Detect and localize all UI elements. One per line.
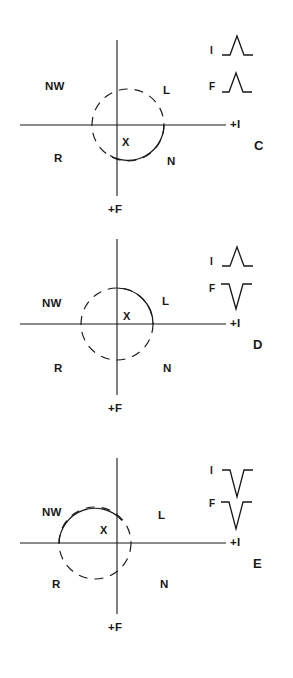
waveform-lead-f xyxy=(221,284,252,309)
panel-d: NW L R N X +I +F I F D xyxy=(0,226,293,452)
panel-letter: E xyxy=(253,557,262,570)
panel-e-drawing xyxy=(0,452,293,678)
panel-letter: C xyxy=(254,139,264,152)
waveform-label-i: I xyxy=(210,257,213,267)
waveform-label-i: I xyxy=(210,46,213,56)
quadrant-label-nw: NW xyxy=(42,507,62,519)
axis-label-horizontal: +I xyxy=(230,537,240,549)
quadrant-label-n: N xyxy=(167,156,176,168)
axis-label-vertical: +F xyxy=(108,622,122,634)
loop-solid-arc xyxy=(59,508,122,543)
waveform-lead-i xyxy=(222,247,253,266)
quadrant-label-nw: NW xyxy=(42,298,62,310)
panel-c-drawing xyxy=(0,0,293,226)
panel-letter: D xyxy=(253,338,263,351)
quadrant-label-n: N xyxy=(163,363,172,375)
panel-e: NW L R N X +I +F I F E xyxy=(0,452,293,678)
quadrant-label-nw: NW xyxy=(45,81,65,93)
axis-label-horizontal: +I xyxy=(230,318,240,330)
quadrant-label-r: R xyxy=(52,579,61,591)
quadrant-label-l: L xyxy=(162,296,169,308)
quadrant-label-l: L xyxy=(163,85,170,97)
waveform-label-f: F xyxy=(209,284,215,294)
waveform-lead-i xyxy=(222,470,253,497)
loop-solid-arc xyxy=(110,125,164,160)
loop-center-label: X xyxy=(100,525,108,536)
axis-label-horizontal: +I xyxy=(230,119,240,131)
quadrant-label-l: L xyxy=(158,510,165,522)
quadrant-label-r: R xyxy=(54,363,63,375)
quadrant-label-n: N xyxy=(160,579,169,591)
axis-label-vertical: +F xyxy=(108,403,122,415)
waveform-lead-f xyxy=(222,73,252,92)
waveform-label-f: F xyxy=(209,82,215,92)
panel-d-drawing xyxy=(0,226,293,452)
waveform-lead-f xyxy=(221,502,252,529)
waveform-label-i: I xyxy=(210,466,213,476)
waveform-label-f: F xyxy=(209,499,215,509)
waveform-lead-i xyxy=(222,36,253,55)
vector-loop-figure: NW L R N X +I +F I F C NW L R N X +I +F … xyxy=(0,0,293,678)
quadrant-label-r: R xyxy=(54,153,63,165)
loop-center-label: X xyxy=(123,311,131,322)
loop-center-label: X xyxy=(122,137,130,148)
axis-label-vertical: +F xyxy=(108,204,122,216)
panel-c: NW L R N X +I +F I F C xyxy=(0,0,293,226)
